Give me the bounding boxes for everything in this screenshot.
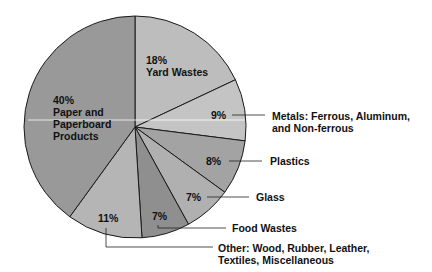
- glass-pct: 7%: [186, 191, 201, 203]
- plastics-pct: 8%: [206, 155, 221, 167]
- label-yard: 18% Yard Wastes: [146, 54, 208, 78]
- label-plastics: Plastics: [270, 155, 310, 167]
- label-metals: Metals: Ferrous, Aluminum, and Non-ferro…: [272, 110, 410, 134]
- label-glass: Glass: [256, 191, 285, 203]
- metals-pct: 9%: [211, 109, 226, 121]
- yard-text: Yard Wastes: [146, 66, 208, 78]
- metals-text-1: Metals: Ferrous, Aluminum,: [272, 110, 410, 122]
- label-other: Other: Wood, Rubber, Leather, Textiles, …: [218, 242, 370, 266]
- paper-pct: 40%: [53, 94, 111, 106]
- label-paper: 40% Paper and Paperboard Products: [53, 94, 111, 142]
- other-pct: 11%: [98, 212, 118, 224]
- metals-text-2: and Non-ferrous: [272, 122, 410, 134]
- yard-pct: 18%: [146, 54, 208, 66]
- paper-text-3: Products: [53, 130, 111, 142]
- other-text-2: Textiles, Miscellaneous: [218, 254, 370, 266]
- other-text-1: Other: Wood, Rubber, Leather,: [218, 242, 370, 254]
- paper-text-1: Paper and: [53, 106, 111, 118]
- food-pct: 7%: [152, 210, 167, 222]
- paper-text-2: Paperboard: [53, 118, 111, 130]
- label-food: Food Wastes: [232, 222, 297, 234]
